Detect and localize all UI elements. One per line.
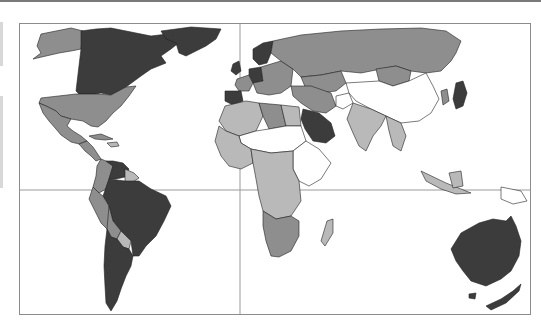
region-new-zealand (486, 284, 521, 310)
top-rule (0, 0, 541, 2)
region-saudi-arabia (301, 109, 335, 143)
region-japan (453, 81, 467, 109)
world-map-frame (19, 23, 531, 315)
region-southern-africa (263, 211, 299, 257)
region-alaska (33, 28, 83, 59)
region-central-america (79, 141, 101, 161)
world-map (20, 24, 530, 314)
region-tasmania (469, 293, 476, 299)
region-korea (441, 89, 449, 105)
region-australia (451, 216, 521, 286)
left-margin-bar (0, 96, 3, 188)
left-margin-bar (0, 22, 3, 66)
region-caribbean (89, 134, 113, 140)
region-russia (271, 28, 461, 77)
region-east-africa (293, 141, 331, 186)
region-scandinavia (253, 41, 273, 65)
region-afghanistan (336, 93, 353, 109)
region-madagascar (321, 219, 333, 246)
region-indonesia (421, 171, 471, 194)
region-caribbean-east (107, 142, 119, 147)
